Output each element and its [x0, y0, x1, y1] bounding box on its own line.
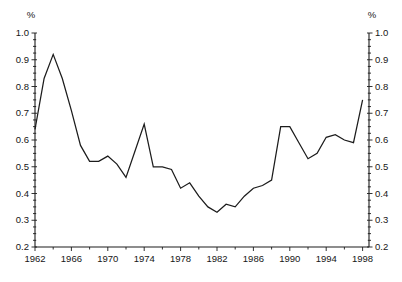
y-tick-label-left: 0.5 [16, 161, 29, 172]
y-tick-label-left: 0.2 [16, 241, 29, 252]
y-tick-label-left: 0.6 [16, 134, 29, 145]
y-tick-label-left: 0.8 [16, 81, 29, 92]
x-tick-label: 1990 [279, 253, 300, 264]
y-axis-unit-right: % [368, 9, 377, 20]
y-tick-label-right: 0.4 [375, 188, 388, 199]
x-tick-label: 1974 [134, 253, 155, 264]
x-tick-label: 1998 [352, 253, 373, 264]
axis-tick-labels: 0.20.20.30.30.40.40.50.50.60.60.70.70.80… [16, 27, 388, 264]
x-tick-label: 1978 [170, 253, 191, 264]
axes [35, 33, 369, 247]
y-tick-label-left: 0.3 [16, 214, 29, 225]
y-tick-label-right: 0.2 [375, 241, 388, 252]
y-tick-label-right: 0.7 [375, 107, 388, 118]
y-tick-label-left: 0.4 [16, 188, 29, 199]
x-tick-label: 1970 [97, 253, 118, 264]
data-series [35, 54, 363, 212]
y-tick-label-left: 0.7 [16, 107, 29, 118]
axis-ticks [32, 33, 373, 251]
y-tick-label-right: 0.6 [375, 134, 388, 145]
y-axis-unit-left: % [27, 9, 36, 20]
chart-page: 0.20.20.30.30.40.40.50.50.60.60.70.70.80… [0, 0, 402, 282]
x-tick-label: 1962 [24, 253, 45, 264]
y-tick-label-right: 0.3 [375, 214, 388, 225]
y-tick-label-left: 1.0 [16, 27, 29, 38]
y-tick-label-right: 1.0 [375, 27, 388, 38]
y-tick-label-right: 0.8 [375, 81, 388, 92]
y-tick-label-left: 0.9 [16, 54, 29, 65]
x-tick-label: 1966 [61, 253, 82, 264]
y-tick-label-right: 0.9 [375, 54, 388, 65]
x-tick-label: 1994 [316, 253, 337, 264]
y-tick-label-right: 0.5 [375, 161, 388, 172]
series-line-share-percent [35, 54, 363, 212]
x-tick-label: 1982 [206, 253, 227, 264]
line-chart: 0.20.20.30.30.40.40.50.50.60.60.70.70.80… [0, 0, 402, 282]
x-tick-label: 1986 [243, 253, 264, 264]
